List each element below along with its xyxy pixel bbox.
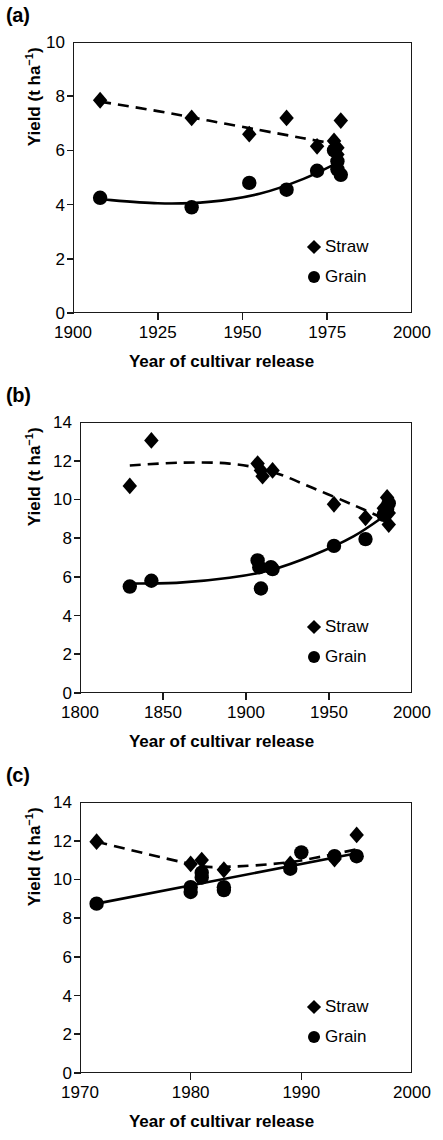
y-tick-label: 4 [21,197,65,214]
y-tick-label: 4 [28,988,72,1005]
data-point-grain [334,168,348,182]
circle-marker-icon [305,648,323,666]
y-tick [74,653,81,655]
data-point-grain [327,849,341,863]
legend-label-straw: Straw [325,997,368,1017]
x-tick [326,313,328,320]
x-tick-label: 1850 [123,704,203,721]
fit-line-grain [100,161,341,203]
y-tick-label: 14 [28,414,72,431]
x-tick-label: 1980 [151,1084,231,1101]
circle-marker-icon [305,1028,323,1046]
legend-item-straw: Straw [305,232,368,262]
x-tick-label: 2000 [372,1084,443,1101]
data-point-grain [349,849,363,863]
legend-item-grain: Grain [305,262,368,292]
panel-a-x-axis-label: Year of cultivar release [0,352,443,372]
y-tick-label: 2 [28,1026,72,1043]
panel-a-legend: Straw Grain [305,232,368,292]
data-point-grain [93,191,107,205]
x-tick [190,1073,192,1080]
y-tick-label: 6 [28,569,72,586]
data-point-grain [382,496,396,510]
x-tick [301,1073,303,1080]
legend-label-straw: Straw [325,237,368,257]
data-point-straw [93,92,107,109]
y-tick [67,204,74,206]
data-point-grain [89,896,103,910]
data-point-grain [265,562,279,576]
data-point-straw [184,109,198,126]
diamond-marker-icon [305,998,323,1016]
circle-marker-icon [305,268,323,286]
x-tick-label: 1950 [289,704,369,721]
x-tick [157,313,159,320]
y-tick-label: 2 [28,646,72,663]
y-tick-label: 10 [28,871,72,888]
x-tick-label: 1990 [261,1084,341,1101]
data-point-grain [123,579,137,593]
diamond-marker-icon [305,618,323,636]
y-tick [74,956,81,958]
fit-line-straw [100,102,341,145]
y-tick [74,692,81,694]
data-point-straw [89,833,103,850]
panel-c-legend: Straw Grain [305,992,368,1052]
legend-item-straw: Straw [305,992,368,1022]
data-point-grain [183,885,197,899]
x-tick [242,313,244,320]
data-point-grain [242,176,256,190]
y-tick-label: 12 [28,453,72,470]
y-tick [74,840,81,842]
y-tick [67,150,74,152]
y-tick [74,917,81,919]
x-tick-label: 1950 [203,324,283,341]
y-tick-label: 6 [21,142,65,159]
y-tick-label: 6 [28,949,72,966]
x-tick-label: 1900 [33,324,113,341]
legend-label-straw: Straw [325,617,368,637]
data-point-grain [195,870,209,884]
x-tick [328,693,330,700]
legend-item-grain: Grain [305,642,368,672]
data-point-straw [358,509,372,526]
x-tick-label: 2000 [372,704,443,721]
panel-b-x-axis-label: Year of cultivar release [0,732,443,752]
y-tick [67,258,74,260]
legend-item-straw: Straw [305,612,368,642]
data-point-straw [279,109,293,126]
legend-item-grain: Grain [305,1022,368,1052]
data-point-grain [144,574,158,588]
data-point-straw [334,112,348,129]
data-point-straw [217,861,231,878]
y-tick-label: 14 [28,794,72,811]
y-tick-label: 0 [21,305,65,322]
data-point-grain [283,862,297,876]
x-tick [162,693,164,700]
y-tick [67,95,74,97]
y-tick-label: 2 [21,251,65,268]
data-point-grain [184,200,198,214]
data-point-grain [310,164,324,178]
data-point-grain [294,845,308,859]
y-tick [74,615,81,617]
panel-c: (c) Yield (t ha−1) Straw Grain Year of c… [0,760,443,1140]
y-tick-label: 8 [28,910,72,927]
y-tick-label: 10 [21,34,65,51]
x-tick [245,693,247,700]
x-tick-label: 1925 [118,324,198,341]
y-tick [74,576,81,578]
legend-label-grain: Grain [325,647,367,667]
panel-a: (a) Yield (t ha−1) Straw Grain Year of c… [0,0,443,380]
y-tick [74,499,81,501]
data-point-grain [358,532,372,546]
y-tick-label: 8 [28,530,72,547]
y-tick-label: 0 [28,1065,72,1082]
y-tick [74,537,81,539]
data-point-straw [144,432,158,449]
panel-c-x-axis-label: Year of cultivar release [0,1112,443,1132]
legend-label-grain: Grain [325,1027,367,1047]
y-tick-label: 8 [21,88,65,105]
data-point-grain [327,539,341,553]
y-tick-label: 12 [28,833,72,850]
